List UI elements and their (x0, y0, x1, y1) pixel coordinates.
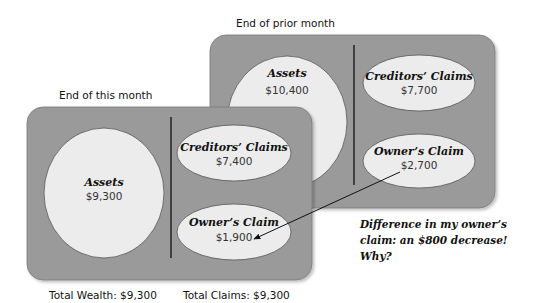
prior-creditors-label: Creditors’ Claims (365, 70, 473, 83)
this-owners-value: $1,900 (216, 231, 253, 243)
this-owners-label: Owner’s Claim (189, 216, 279, 229)
prior-assets-label: Assets (266, 67, 306, 80)
this-creditors-label: Creditors’ Claims (180, 141, 288, 154)
annotation-line-3: Why? (360, 250, 393, 262)
prior-assets-value: $10,400 (265, 84, 308, 96)
prior-owners-value: $2,700 (401, 159, 438, 171)
annotation-line-1: Difference in my owner’s (359, 218, 507, 230)
prior-owners-label: Owner’s Claim (374, 145, 464, 158)
this-month-panel: Assets $9,300 Creditors’ Claims $7,400 O… (27, 107, 312, 280)
balance-diagram: End of prior month Assets $10,400 Credit… (0, 0, 545, 303)
this-creditors-value: $7,400 (216, 155, 253, 167)
annotation-line-2: claim: an $800 decrease! (360, 234, 508, 246)
this-assets-value: $9,300 (86, 190, 123, 202)
prior-creditors-value: $7,700 (401, 84, 438, 96)
prior-month-title: End of prior month (236, 17, 335, 29)
total-claims: Total Claims: $9,300 (182, 289, 290, 301)
this-assets-label: Assets (83, 176, 123, 189)
this-month-title: End of this month (59, 89, 152, 101)
total-wealth: Total Wealth: $9,300 (48, 289, 157, 301)
prior-creditors-ellipse (363, 55, 475, 111)
